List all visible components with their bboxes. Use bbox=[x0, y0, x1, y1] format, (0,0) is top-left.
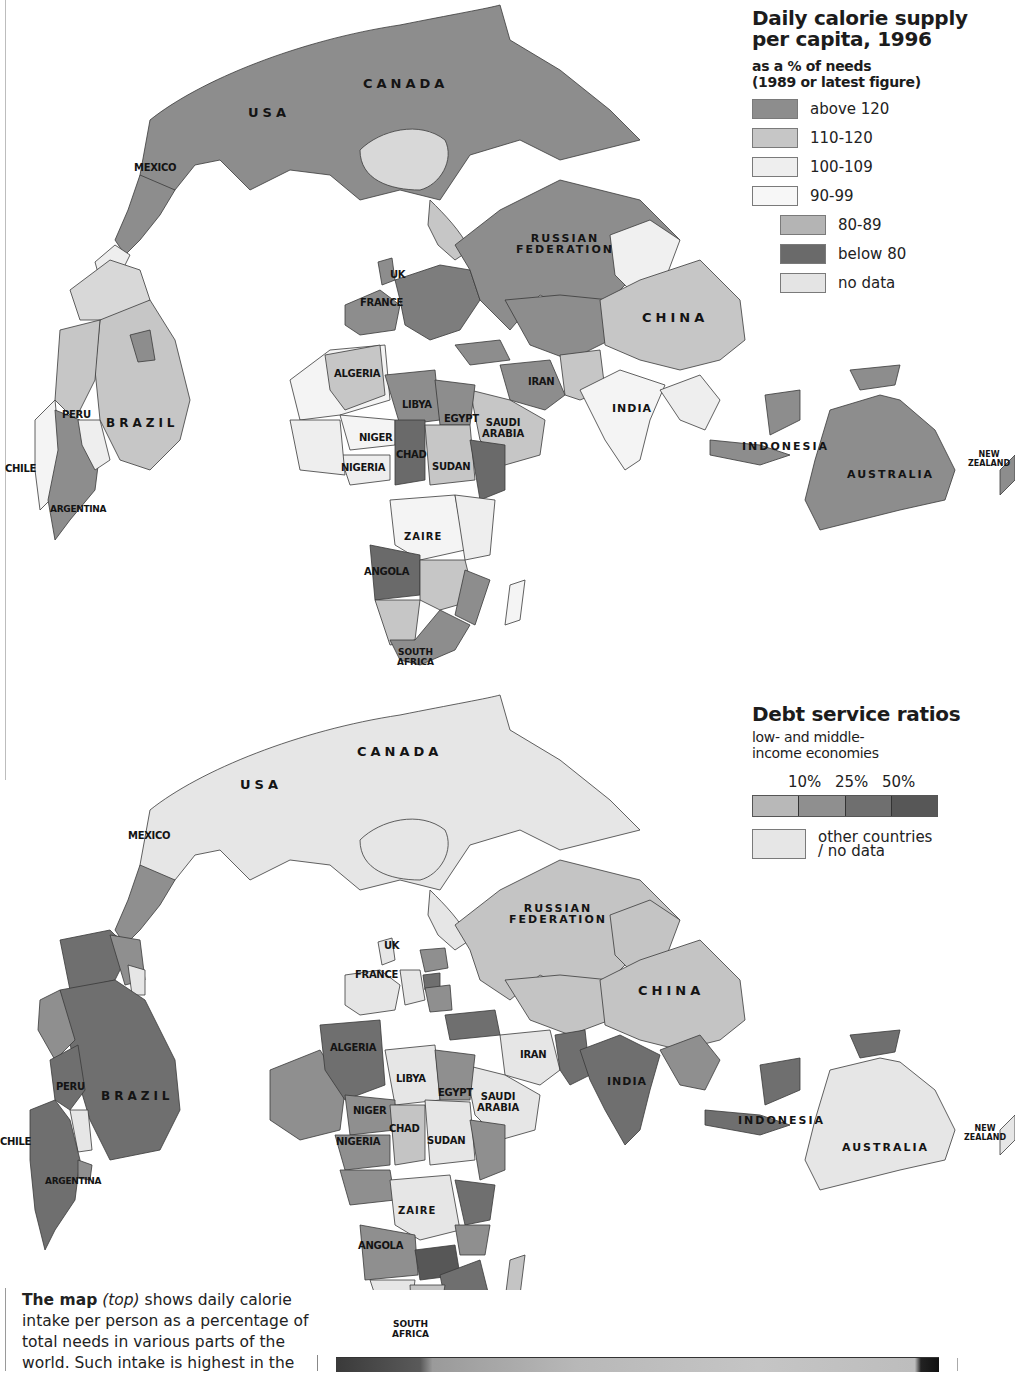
region-madagascar bbox=[505, 580, 525, 625]
label-russian-federation: RUSSIAN FEDERATION bbox=[515, 233, 615, 255]
caption-text: The map (top) shows daily calorie intake… bbox=[22, 1290, 322, 1374]
calorie-legend-subtitle: as a % of needs (1989 or latest figure) bbox=[752, 58, 968, 90]
region-borneo bbox=[765, 390, 800, 435]
label-russian-federation: RUSSIAN FEDERATION bbox=[508, 903, 608, 925]
label-china: CHINA bbox=[642, 311, 708, 324]
region-png bbox=[850, 1030, 900, 1058]
label-chile: CHILE bbox=[5, 464, 36, 474]
calorie-subtitle-line2: (1989 or latest figure) bbox=[752, 74, 968, 90]
caption-lead: The map bbox=[22, 1291, 97, 1309]
label-india: INDIA bbox=[607, 1076, 647, 1087]
caption-rule bbox=[5, 1288, 6, 1371]
tick-50: 50% bbox=[882, 773, 929, 791]
debt-scale-ticks: 10% 25% 50% bbox=[788, 773, 960, 791]
region-sudan bbox=[425, 1100, 475, 1165]
label-sa-line1: SOUTH bbox=[392, 1319, 429, 1329]
region-borneo bbox=[760, 1058, 800, 1105]
swatch-above-120 bbox=[752, 99, 798, 119]
region-namibia bbox=[370, 1280, 415, 1290]
label-canada: CANADA bbox=[357, 745, 442, 758]
calorie-legend-items: above 120 110-120 100-109 90-99 80-89 be… bbox=[752, 94, 968, 297]
label-indonesia: INDONESIA bbox=[738, 1115, 825, 1126]
legend-item-80-89: 80-89 bbox=[752, 210, 968, 239]
swatch-110-120 bbox=[752, 128, 798, 148]
calorie-supply-map: USA CANADA MEXICO RUSSIAN FEDERATION UK … bbox=[0, 0, 1015, 690]
region-mexico bbox=[115, 865, 175, 945]
region-kenya bbox=[455, 1180, 495, 1225]
region-australia bbox=[805, 395, 955, 530]
region-se-asia bbox=[660, 375, 720, 430]
label-nz-line2: ZEALAND bbox=[968, 459, 1010, 468]
region-tanzania bbox=[455, 1225, 490, 1255]
region-ethiopia bbox=[470, 440, 505, 500]
label-south-africa: SOUTH AFRICA bbox=[397, 647, 434, 667]
region-philippines-png bbox=[850, 365, 900, 390]
label-angola: ANGOLA bbox=[358, 1241, 403, 1251]
region-mexico bbox=[115, 175, 175, 255]
region-poland bbox=[420, 948, 448, 972]
legend-item-below-80: below 80 bbox=[752, 239, 968, 268]
region-central-europe bbox=[395, 265, 480, 340]
label-france: FRANCE bbox=[360, 298, 403, 308]
debt-legend-title: Debt service ratios bbox=[752, 704, 960, 725]
label-new-zealand: NEW ZEALAND bbox=[964, 1124, 1006, 1142]
label-nz-line1: NEW bbox=[968, 450, 1010, 459]
region-india bbox=[580, 1035, 660, 1145]
label-usa: USA bbox=[240, 778, 282, 791]
calorie-subtitle-line1: as a % of needs bbox=[752, 58, 968, 74]
tick-10: 10% bbox=[788, 773, 835, 791]
label-algeria: ALGERIA bbox=[334, 369, 380, 379]
region-brazil bbox=[95, 300, 190, 470]
label-niger: NIGER bbox=[359, 433, 392, 443]
region-chad bbox=[390, 1105, 425, 1165]
label-saudi-line1: SAUDI bbox=[482, 417, 524, 428]
region-india bbox=[580, 370, 665, 470]
swatch-90-99 bbox=[752, 186, 798, 206]
label-mexico: MEXICO bbox=[128, 831, 170, 841]
label-uk: UK bbox=[390, 270, 405, 280]
region-west-africa bbox=[290, 420, 345, 475]
region-turkey bbox=[455, 340, 510, 365]
label-sa-line2: AFRICA bbox=[392, 1329, 429, 1339]
legend-label: 90-99 bbox=[810, 187, 854, 205]
region-libya bbox=[385, 370, 440, 425]
label-iran: IRAN bbox=[528, 377, 554, 387]
label-libya: LIBYA bbox=[402, 400, 432, 410]
column-rule bbox=[317, 1355, 318, 1371]
label-libya: LIBYA bbox=[396, 1074, 426, 1084]
label-russian-line2: FEDERATION bbox=[508, 914, 608, 925]
region-peru bbox=[55, 320, 100, 420]
label-indonesia: INDONESIA bbox=[742, 441, 829, 452]
label-nigeria: NIGERIA bbox=[336, 1137, 380, 1147]
photo-strip bbox=[336, 1357, 939, 1372]
label-algeria: ALGERIA bbox=[330, 1043, 376, 1053]
label-russian-line2: FEDERATION bbox=[515, 244, 615, 255]
region-botswana bbox=[410, 1285, 445, 1290]
label-china: CHINA bbox=[638, 984, 704, 997]
caption-paren: (top) bbox=[102, 1291, 140, 1309]
label-france: FRANCE bbox=[355, 970, 398, 980]
legend-item-100-109: 100-109 bbox=[752, 152, 968, 181]
region-madagascar bbox=[505, 1255, 525, 1290]
debt-legend: Debt service ratios low- and middle- inc… bbox=[752, 704, 960, 859]
region-ethiopia bbox=[470, 1120, 505, 1180]
label-peru: PERU bbox=[62, 410, 91, 420]
legend-label: 80-89 bbox=[838, 216, 882, 234]
label-zaire: ZAIRE bbox=[404, 532, 442, 542]
label-brazil: BRAZIL bbox=[106, 417, 179, 429]
label-nz-line1: NEW bbox=[964, 1124, 1006, 1133]
legend-label: 100-109 bbox=[810, 158, 873, 176]
label-egypt: EGYPT bbox=[444, 414, 479, 424]
label-uk: UK bbox=[384, 941, 399, 951]
label-brazil: BRAZIL bbox=[101, 1090, 174, 1102]
label-angola: ANGOLA bbox=[364, 567, 409, 577]
label-usa: USA bbox=[248, 106, 290, 119]
label-saudi-line2: ARABIA bbox=[477, 1102, 519, 1113]
region-balkans bbox=[425, 985, 452, 1012]
swatch-25-50 bbox=[846, 796, 892, 816]
region-turkey bbox=[445, 1010, 500, 1040]
label-chad: CHAD bbox=[396, 450, 427, 460]
label-south-africa: SOUTH AFRICA bbox=[392, 1319, 429, 1339]
label-chile: CHILE bbox=[0, 1137, 31, 1147]
legend-label: below 80 bbox=[838, 245, 906, 263]
